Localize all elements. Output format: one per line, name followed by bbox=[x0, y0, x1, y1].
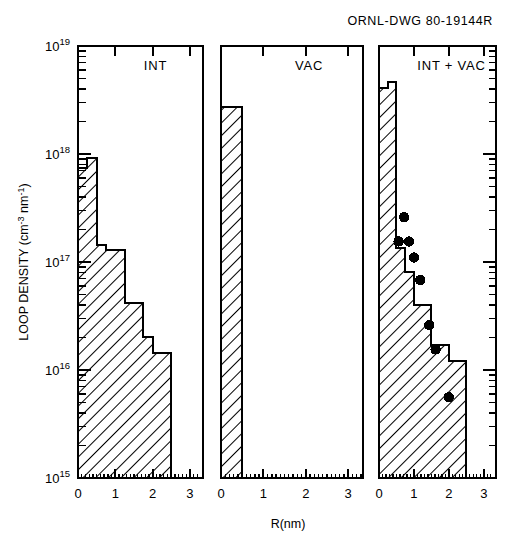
data-point bbox=[393, 236, 403, 246]
figure-canvas: ORNL-DWG 80-19144R LOOP DENSITY (cm-3 nm… bbox=[0, 0, 531, 542]
data-point bbox=[430, 344, 440, 354]
y-axis-label-exp2: -1 bbox=[16, 188, 26, 196]
data-point bbox=[404, 236, 414, 246]
y-axis-label-units-close: ) bbox=[17, 183, 31, 187]
panel-label-vac: VAC bbox=[295, 58, 323, 73]
x-axis-tick-label: 1 bbox=[260, 486, 267, 501]
y-axis-label: LOOP DENSITY (cm-3 nm-1) bbox=[16, 183, 31, 340]
x-axis-tick-label: 0 bbox=[74, 486, 81, 501]
data-point bbox=[399, 212, 409, 222]
panel-label-int_vac: INT + VAC bbox=[417, 58, 486, 73]
data-point bbox=[444, 392, 454, 402]
x-axis-tick-label: 3 bbox=[345, 486, 352, 501]
figure-root: ORNL-DWG 80-19144R LOOP DENSITY (cm-3 nm… bbox=[0, 0, 531, 542]
x-axis-tick-label: 2 bbox=[445, 486, 452, 501]
data-point bbox=[409, 252, 419, 262]
x-axis-tick-label: 0 bbox=[217, 486, 224, 501]
x-axis-tick-label: 0 bbox=[375, 486, 382, 501]
x-axis-tick-label: 1 bbox=[410, 486, 417, 501]
scientific-figure-svg: ORNL-DWG 80-19144R LOOP DENSITY (cm-3 nm… bbox=[0, 0, 531, 542]
panel-label-int: INT bbox=[144, 58, 167, 73]
y-axis-label-units-mid: nm bbox=[17, 196, 31, 217]
x-axis-tick-label: 2 bbox=[149, 486, 156, 501]
y-axis-label-exp1: -3 bbox=[16, 216, 26, 224]
x-axis-tick-label: 3 bbox=[480, 486, 487, 501]
drawing-number-label: ORNL-DWG 80-19144R bbox=[347, 14, 493, 28]
y-axis-label-units-open: (cm bbox=[17, 224, 31, 245]
svg-text:LOOP DENSITY (cm-3 nm-1): LOOP DENSITY (cm-3 nm-1) bbox=[16, 183, 31, 340]
data-point bbox=[415, 275, 425, 285]
y-axis-label-main: LOOP DENSITY bbox=[17, 248, 31, 341]
x-axis-tick-label: 2 bbox=[302, 486, 309, 501]
x-axis-tick-label: 3 bbox=[186, 486, 193, 501]
x-axis-tick-label: 1 bbox=[112, 486, 119, 501]
histogram-fill-vac bbox=[221, 107, 242, 478]
x-axis-label: R(nm) bbox=[271, 517, 306, 531]
data-point bbox=[424, 320, 434, 330]
